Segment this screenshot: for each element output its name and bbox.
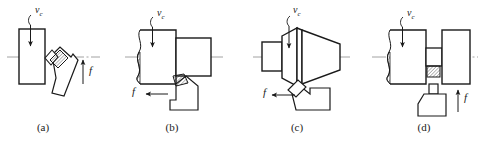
panel-caption-b: (b) xyxy=(152,121,192,133)
panel-a-drawing xyxy=(7,15,100,96)
panel-d-workpiece-left xyxy=(390,30,426,84)
panel-a-velocity-arrow xyxy=(29,15,32,25)
panel-c-drawing xyxy=(253,16,350,110)
panel-d-tool-shank xyxy=(418,94,446,116)
panel-c-workpiece-cone xyxy=(297,28,302,86)
panel-a-velocity-label: vc xyxy=(35,4,43,18)
panel-d-velocity-subscript: c xyxy=(411,13,414,21)
panel-caption-a: (a) xyxy=(23,121,63,133)
panel-b-drawing xyxy=(125,17,225,110)
panel-caption-c: (c) xyxy=(277,121,317,133)
panel-a-velocity-subscript: c xyxy=(39,10,42,18)
panel-b-section-hatch xyxy=(137,52,140,84)
panel-a-feed-label: f xyxy=(89,64,92,76)
panel-c-workpiece-taper xyxy=(302,30,340,84)
panel-d-groove-neck xyxy=(426,48,442,66)
panel-a-workpiece xyxy=(19,29,45,84)
panel-d-drawing xyxy=(372,17,478,116)
panel-c-velocity-arrow xyxy=(287,16,290,26)
panel-d-velocity-label: vc xyxy=(407,7,415,21)
panel-c-velocity-subscript: c xyxy=(297,10,300,18)
panel-d-feed-label: f xyxy=(464,91,467,103)
panel-d-tool-blade xyxy=(429,84,438,94)
panel-caption-d: (d) xyxy=(404,121,444,133)
panel-b-velocity-label: vc xyxy=(157,7,165,21)
panel-d-cutting-insert xyxy=(427,66,440,77)
panel-b-workpiece-turned xyxy=(176,38,211,76)
panel-c-workpiece-stub xyxy=(262,42,282,71)
panel-d-section-hatch xyxy=(387,52,390,84)
panel-b-velocity-arrow xyxy=(151,17,154,27)
panel-c-velocity-label: vc xyxy=(293,4,301,18)
panel-b-workpiece-large xyxy=(140,30,176,84)
turning-operations-figure: vc vc vc vc f f f f (a) (b) (c) (d) xyxy=(0,0,484,145)
panel-d-workpiece-right xyxy=(442,30,470,84)
panel-b-feed-label: f xyxy=(132,85,135,97)
panel-c-feed-label: f xyxy=(263,86,266,98)
panel-d-velocity-arrow xyxy=(401,17,404,27)
panel-b-velocity-subscript: c xyxy=(161,13,164,21)
